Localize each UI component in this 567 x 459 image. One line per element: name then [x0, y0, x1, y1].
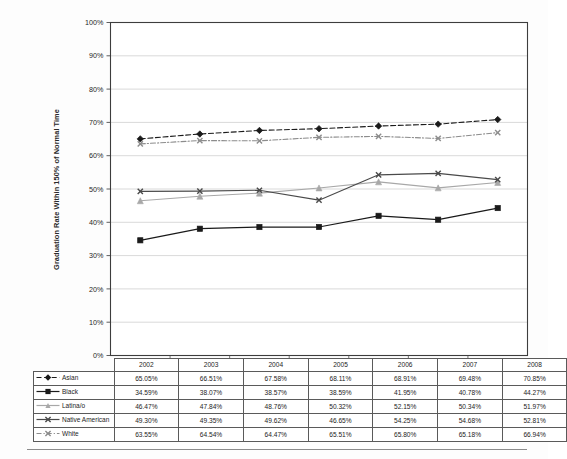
- y-axis-tick-label: 40%: [89, 218, 104, 227]
- data-point-marker: [436, 217, 441, 222]
- table-cell-value: 41.95%: [373, 386, 438, 400]
- table-cell-value: 65.51%: [308, 428, 373, 442]
- y-axis-tick-label: 20%: [89, 285, 104, 294]
- table-cell-value: 65.80%: [373, 428, 438, 442]
- data-point-marker: [257, 224, 262, 229]
- y-axis-tick-label: 90%: [89, 51, 104, 60]
- table-row: Native American49.30%49.35%49.62%46.65%5…: [34, 414, 567, 428]
- data-point-marker: [495, 205, 500, 210]
- data-table: 2002200320042005200620072008 Asian65.05%…: [33, 358, 567, 442]
- y-axis-tick-label: 50%: [89, 185, 104, 194]
- data-point-marker: [197, 226, 202, 231]
- table-header-year: 2007: [438, 359, 503, 372]
- table-cell-value: 50.34%: [438, 400, 503, 414]
- table-row: Latina/o46.47%47.84%48.76%50.32%52.15%50…: [34, 400, 567, 414]
- table-cell-value: 44.27%: [502, 386, 567, 400]
- data-point-marker: [138, 238, 143, 243]
- legend-entry-native-american: Native American: [34, 414, 115, 428]
- data-point-marker: [316, 224, 321, 229]
- table-cell-value: 52.15%: [373, 400, 438, 414]
- legend-entry-asian: Asian: [34, 372, 115, 386]
- table-header-year: 2003: [179, 359, 244, 372]
- legend-label: Latina/o: [62, 400, 85, 412]
- table-cell-value: 46.65%: [308, 414, 373, 428]
- table-cell-value: 70.85%: [502, 372, 567, 386]
- table-cell-value: 34.59%: [114, 386, 179, 400]
- legend-label: White: [62, 428, 79, 440]
- legend-swatch-asian: [36, 373, 60, 382]
- table-cell-value: 52.81%: [502, 414, 567, 428]
- table-header-row: 2002200320042005200620072008: [34, 359, 567, 372]
- table-cell-value: 65.18%: [438, 428, 503, 442]
- table-cell-value: 48.76%: [243, 400, 308, 414]
- y-axis-tick-label: 10%: [89, 318, 104, 327]
- legend-label: Asian: [62, 372, 78, 384]
- legend-swatch-black: [36, 387, 60, 396]
- table-cell-value: 50.32%: [308, 400, 373, 414]
- table-cell-value: 51.97%: [502, 400, 567, 414]
- legend-label: Native American: [62, 414, 109, 426]
- table-cell-value: 67.58%: [243, 372, 308, 386]
- table-cell-value: 47.84%: [179, 400, 244, 414]
- table-cell-value: 38.59%: [308, 386, 373, 400]
- table-cell-value: 68.11%: [308, 372, 373, 386]
- table-header-year: 2005: [308, 359, 373, 372]
- data-point-marker: [376, 213, 381, 218]
- table-cell-value: 64.54%: [179, 428, 244, 442]
- y-axis-tick-label: 80%: [89, 85, 104, 94]
- table-cell-value: 49.30%: [114, 414, 179, 428]
- legend-entry-latina-o: Latina/o: [34, 400, 115, 414]
- y-axis-tick-label: 30%: [89, 251, 104, 260]
- table-cell-value: 38.07%: [179, 386, 244, 400]
- table-body: Asian65.05%66.51%67.58%68.11%68.91%69.48…: [34, 372, 567, 442]
- legend-swatch-latina-o: [36, 401, 60, 410]
- table-cell-value: 46.47%: [114, 400, 179, 414]
- table-cell-value: 38.57%: [243, 386, 308, 400]
- table-header-year: 2002: [114, 359, 179, 372]
- legend-label: Black: [62, 386, 78, 398]
- y-axis-tick-label: 60%: [89, 151, 104, 160]
- table-cell-value: 40.78%: [438, 386, 503, 400]
- table-header-year: 2008: [502, 359, 567, 372]
- line-chart-plot: 100%90%80%70%60%50%40%30%20%10%0%: [0, 0, 548, 380]
- page-separator-rule: [27, 449, 527, 450]
- table-cell-value: 66.51%: [179, 372, 244, 386]
- table-row: Asian65.05%66.51%67.58%68.11%68.91%69.48…: [34, 372, 567, 386]
- table-corner-cell: [34, 359, 115, 372]
- table-cell-value: 68.91%: [373, 372, 438, 386]
- legend-entry-white: White: [34, 428, 115, 442]
- table-header-year: 2006: [373, 359, 438, 372]
- table-cell-value: 69.48%: [438, 372, 503, 386]
- legend-entry-black: Black: [34, 386, 115, 400]
- table-cell-value: 64.47%: [243, 428, 308, 442]
- legend-swatch-native-american: [36, 415, 60, 424]
- table-cell-value: 54.68%: [438, 414, 503, 428]
- table-header-year: 2004: [243, 359, 308, 372]
- table-cell-value: 49.35%: [179, 414, 244, 428]
- table-row: White63.55%64.54%64.47%65.51%65.80%65.18…: [34, 428, 567, 442]
- table-cell-value: 49.62%: [243, 414, 308, 428]
- table-cell-value: 63.55%: [114, 428, 179, 442]
- table-cell-value: 65.05%: [114, 372, 179, 386]
- y-axis-tick-label: 70%: [89, 118, 104, 127]
- table-cell-value: 54.25%: [373, 414, 438, 428]
- table-row: Black34.59%38.07%38.57%38.59%41.95%40.78…: [34, 386, 567, 400]
- legend-swatch-white: [36, 429, 60, 438]
- y-axis-tick-label: 100%: [85, 18, 104, 27]
- table-cell-value: 66.94%: [502, 428, 567, 442]
